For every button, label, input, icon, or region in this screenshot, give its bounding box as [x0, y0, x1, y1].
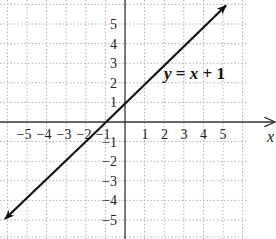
y-tick-neg3: −3 — [102, 174, 117, 189]
y-tick-1: 1 — [110, 95, 117, 110]
x-tick-3: 3 — [181, 127, 188, 142]
x-tick-neg4: −4 — [37, 127, 52, 142]
y-tick-2: 2 — [110, 76, 117, 91]
x-axis-label: x — [266, 128, 274, 145]
y-tick-4: 4 — [110, 37, 117, 52]
y-tick-5: 5 — [110, 17, 117, 32]
grid — [0, 0, 248, 239]
x-tick-neg5: −5 — [17, 127, 32, 142]
equation-label: y = x + 1 — [162, 64, 225, 83]
x-tick-labels: −5 −4 −3 −2 −1 1 2 3 4 5 — [17, 127, 227, 142]
equation-x: x — [189, 64, 199, 83]
equation-y: y — [162, 64, 172, 83]
x-tick-5: 5 — [220, 127, 227, 142]
y-tick-3: 3 — [110, 56, 117, 71]
y-tick-neg4: −4 — [102, 193, 117, 208]
x-tick-2: 2 — [161, 127, 168, 142]
y-tick-neg5: −5 — [102, 213, 117, 228]
x-tick-4: 4 — [200, 127, 207, 142]
equation-equals: = — [172, 64, 190, 83]
equation-plus-one: + 1 — [198, 64, 225, 83]
x-tick-1: 1 — [142, 127, 149, 142]
coordinate-plane: 5 4 3 2 1 −1 −2 −3 −4 −5 −5 −4 −3 −2 −1 … — [0, 0, 276, 239]
x-tick-neg3: −3 — [57, 127, 72, 142]
y-tick-neg2: −2 — [102, 154, 117, 169]
